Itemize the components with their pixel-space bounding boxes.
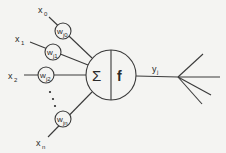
svg-text:x: x [38, 5, 43, 15]
svg-text:2: 2 [14, 77, 18, 83]
svg-text:jn: jn [62, 120, 68, 126]
svg-text:w: w [39, 71, 46, 80]
weight-w-j2: w j2 [38, 67, 54, 83]
svg-text:j0: j0 [62, 32, 68, 38]
neuron-body: Σ f [86, 50, 136, 100]
svg-text:w: w [46, 48, 53, 57]
ellipsis-dots [49, 91, 56, 107]
weight-w-j1: w j1 [45, 44, 61, 60]
weight-w-jn: w jn [55, 111, 71, 127]
neuron-diagram: w j0 w j1 w j2 w jn x 0 x 1 x 2 x n [0, 0, 226, 153]
input-label-x1: x 1 [15, 34, 25, 46]
activation-function: f [117, 68, 122, 84]
svg-text:x: x [15, 34, 20, 44]
svg-text:j1: j1 [52, 53, 58, 59]
svg-text:n: n [42, 144, 45, 150]
weight-w-j0: w j0 [55, 23, 71, 39]
input-label-x2: x 2 [8, 71, 18, 83]
input-label-xn: x n [36, 138, 45, 150]
svg-text:0: 0 [44, 11, 48, 17]
sum-symbol: Σ [92, 67, 101, 84]
svg-text:x: x [36, 138, 41, 148]
svg-text:j: j [156, 69, 158, 75]
svg-text:x: x [8, 71, 13, 81]
svg-text:w: w [56, 115, 63, 124]
svg-text:w: w [56, 27, 63, 36]
output: y j [136, 54, 220, 104]
input-label-x0: x 0 [38, 5, 48, 17]
svg-text:1: 1 [21, 40, 25, 46]
svg-text:j2: j2 [45, 76, 51, 82]
